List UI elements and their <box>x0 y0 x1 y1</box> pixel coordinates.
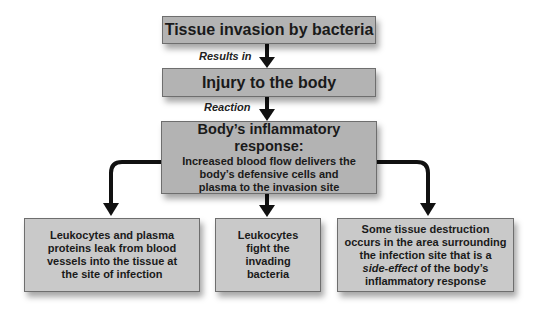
node-text-line: invading <box>245 255 290 268</box>
node-text-line: Leukocytes and plasma <box>50 229 174 242</box>
arrowhead-icon <box>259 205 275 217</box>
node-text-line: vessels into the tissue at <box>47 255 177 268</box>
node-text-line: proteins leak from blood <box>48 242 176 255</box>
node-text-line: plasma to the invasion site <box>199 181 340 194</box>
node-text-line: inflammatory response <box>365 275 486 288</box>
node-text-line: bacteria <box>247 268 289 281</box>
node-title: Body’s inflammatory response: <box>162 121 376 155</box>
node-text-line: occurs in the area surrounding <box>345 236 507 249</box>
node-inflammatory-response: Body’s inflammatory response: Increased … <box>161 121 377 194</box>
node-text-line: body’s defensive cells and <box>200 168 339 181</box>
node-tissue-destruction: Some tissue destruction occurs in the ar… <box>337 218 514 292</box>
node-text-rest: of the body’s <box>417 262 488 274</box>
node-leukocytes-fight: Leukocytes fight the invading bacteria <box>215 218 321 292</box>
node-text-line: fight the <box>246 242 289 255</box>
edge-label-reaction: Reaction <box>204 101 250 113</box>
emphasis-side-effect: side-effect <box>363 262 418 274</box>
node-text-line: the infection site that is a <box>359 249 491 262</box>
node-label: Injury to the body <box>202 74 336 92</box>
arrowhead-icon <box>103 203 119 216</box>
node-label: Tissue invasion by bacteria <box>165 21 374 39</box>
node-text-line: side-effect of the body’s <box>363 262 489 275</box>
arrowhead-icon <box>420 203 436 216</box>
node-injury: Injury to the body <box>162 68 376 97</box>
node-text-line: Increased blood flow delivers the <box>182 155 356 168</box>
node-text-line: Some tissue destruction <box>362 223 490 236</box>
node-leukocytes-leak: Leukocytes and plasma proteins leak from… <box>24 218 200 292</box>
node-text-line: the site of infection <box>62 268 163 281</box>
arrowhead-icon <box>259 57 275 68</box>
arrowhead-icon <box>259 109 275 121</box>
edge-label-results-in: Results in <box>199 50 252 62</box>
node-tissue-invasion: Tissue invasion by bacteria <box>162 16 376 44</box>
node-text-line: Leukocytes <box>238 229 299 242</box>
